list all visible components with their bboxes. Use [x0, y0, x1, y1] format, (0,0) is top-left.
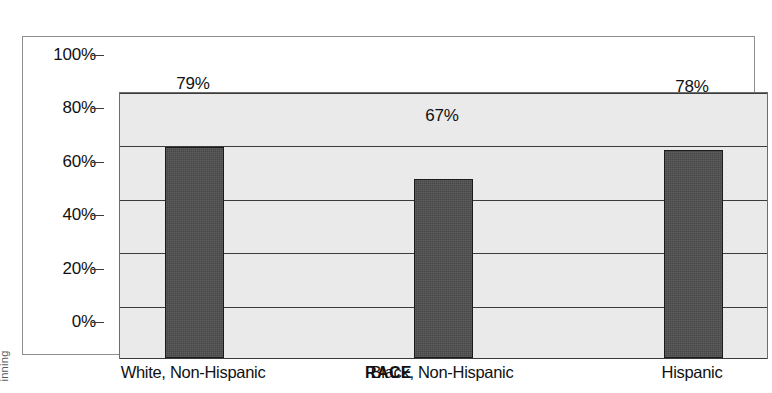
- gridline: [120, 358, 767, 359]
- plot-area: [119, 92, 768, 359]
- gridline: [120, 93, 767, 94]
- bar-value-label: 78%: [675, 77, 708, 97]
- chart-outer-frame: 79% 67% 78% White, Non-Hispanic Black, N…: [22, 36, 755, 355]
- bar-value-label: 79%: [176, 74, 209, 94]
- x-axis-title: RACE: [0, 364, 772, 382]
- bar-black-non-hispanic[interactable]: [414, 179, 473, 358]
- page-margin-text: inning: [0, 350, 10, 381]
- bar-white-non-hispanic[interactable]: [165, 147, 224, 358]
- bar-hispanic[interactable]: [664, 150, 723, 358]
- bar-value-label: 67%: [425, 106, 458, 126]
